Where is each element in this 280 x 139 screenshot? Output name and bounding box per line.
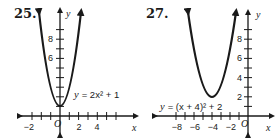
x-tick-label: −2 [226,122,236,132]
figure: 25. −2 2 [0,0,280,139]
parabola-curve [188,12,236,97]
x-tick-label: −6 [190,122,200,132]
y-tick-label: 8 [48,34,53,44]
y-axis-label: y [255,9,261,20]
x-axis-label: x [265,122,271,133]
x-tick-label: −2 [24,122,34,132]
x-tick-label: 2 [76,122,81,132]
y-tick-label: 4 [237,73,242,83]
x-axis-label: x [131,122,137,133]
graph-25: 25. −2 2 [14,6,137,135]
equation-label: y= (x + 4)² + 2 [159,101,222,112]
x-tick-label: −8 [172,122,182,132]
y-tick-label: 8 [237,34,242,44]
y-tick-label: 2 [237,92,242,102]
origin-label: O [241,118,248,129]
equation-label: y= 2x² + 1 [73,89,119,100]
y-tick-label: 6 [48,53,53,63]
problem-number: 25. [14,6,37,21]
graph-27: 27. −8 −6 −4 −2 2 [146,6,272,135]
problem-number: 27. [146,6,169,21]
x-tick-label: −4 [208,122,218,132]
y-axis-label: y [65,8,71,19]
origin-label: O [54,118,61,129]
x-tick-label: 4 [94,122,99,132]
y-tick-label: 6 [237,53,242,63]
